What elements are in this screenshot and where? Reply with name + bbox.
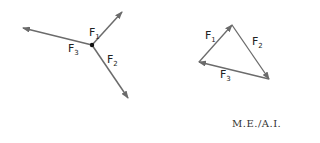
left-diagram: F1 F2 F3 (23, 12, 128, 98)
triangle-f1-label: F1 (205, 29, 216, 44)
f1-label: F1 (89, 26, 100, 41)
f3-arrow (23, 28, 92, 45)
triangle-f3-label: F3 (220, 68, 231, 83)
application-point (90, 43, 94, 47)
right-diagram: F1 F2 F3 (199, 25, 269, 83)
credit-text: M.E./A.I. (232, 118, 281, 129)
triangle-f2-label: F2 (252, 35, 263, 50)
f2-label: F2 (107, 53, 118, 68)
f3-label: F3 (68, 42, 79, 57)
